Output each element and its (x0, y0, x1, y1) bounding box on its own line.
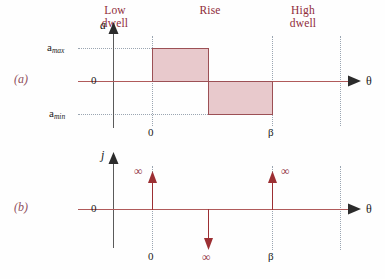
panel-a-x-axis-label: θ (366, 74, 372, 89)
panel-a-y-axis (113, 30, 114, 128)
zone-high-dwell-line1: High (273, 4, 333, 17)
guide-line-a-min (78, 114, 214, 115)
panel-a-ytick-a-min-sub: min (54, 112, 65, 121)
impulse-at-mid-magnitude: ∞ (202, 250, 211, 265)
impulse-at-beta-arrowhead (267, 171, 278, 183)
acceleration-jerk-diagram: Low dwell Rise High dwell (a) a θ amax 0… (0, 0, 385, 279)
panel-b-y-axis-arrow (108, 152, 119, 164)
panel-a-x-axis-arrow (348, 75, 361, 87)
impulse-at-mid-stem (208, 209, 209, 241)
panel-caption-a: (a) (14, 72, 28, 87)
panel-b-xtick-beta: β (268, 250, 274, 262)
accel-negative-block (208, 81, 273, 115)
panel-a-xtick-beta: β (268, 126, 274, 138)
zone-high-dwell-line2: dwell (273, 17, 333, 30)
panel-b-xtick-zero: 0 (148, 250, 154, 262)
panel-a-ytick-a-max: amax (47, 41, 64, 55)
zone-low-dwell-line1: Low (85, 4, 145, 17)
panel-a-ytick-a-max-sub: max (52, 46, 65, 55)
panel-b-x-axis (78, 209, 352, 210)
accel-positive-block (152, 48, 209, 82)
impulse-at-mid-arrowhead (203, 238, 214, 250)
panel-a-ytick-zero: 0 (91, 74, 97, 86)
guide-line-a-max (78, 48, 156, 49)
impulse-at-0-arrowhead (147, 171, 158, 183)
panel-b-x-axis-arrow (348, 203, 361, 215)
panel-b-y-axis-label: j (101, 148, 104, 163)
panel-b-ytick-zero: 0 (91, 202, 97, 214)
panel-a-y-axis-label: a (100, 18, 106, 33)
impulse-at-beta-magnitude: ∞ (281, 164, 290, 179)
zone-rise-line1: Rise (180, 4, 240, 17)
impulse-at-0-magnitude: ∞ (134, 164, 143, 179)
panel-b-x-axis-label: θ (366, 202, 372, 217)
zone-label-rise: Rise (180, 4, 240, 17)
panel-a-y-axis-arrow (108, 22, 119, 34)
zone-label-high-dwell: High dwell (273, 4, 333, 29)
boundary-line-end-b (340, 166, 341, 250)
panel-b-y-axis (113, 160, 114, 248)
panel-a-xtick-zero: 0 (148, 126, 154, 138)
panel-a-ytick-a-min: amin (49, 107, 65, 121)
panel-caption-b: (b) (14, 200, 28, 215)
